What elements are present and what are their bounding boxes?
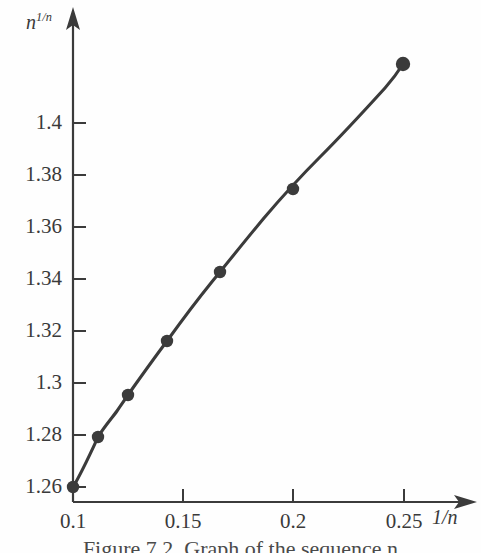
figure-container: n1/n 1/n 1.26 1.28 1.3 1.32 1.34 1.36 1.… [0, 0, 481, 553]
figure-caption: Figure 7.2. Graph of the sequence n [0, 536, 481, 553]
y-tick-label-1-40: 1.4 [0, 112, 62, 133]
y-tick-label-1-28: 1.28 [0, 424, 62, 445]
x-tick-label-0-2: 0.2 [263, 511, 323, 532]
data-point-n6 [214, 266, 226, 278]
data-point-n9 [92, 431, 104, 443]
y-tick-label-1-36: 1.36 [0, 216, 62, 237]
y-axis-title-base: n [26, 11, 36, 33]
y-tick-label-1-26: 1.26 [0, 476, 62, 497]
plot-canvas [0, 0, 481, 553]
x-tick-label-0-25: 0.25 [369, 511, 439, 532]
y-tick-label-1-30: 1.3 [0, 372, 62, 393]
x-tick-label-0-15: 0.15 [148, 511, 218, 532]
y-axis-title-exponent: 1/n [36, 10, 52, 24]
y-tick-label-1-32: 1.32 [0, 320, 62, 341]
data-point-n10 [67, 481, 79, 493]
y-tick-label-1-34: 1.34 [0, 268, 62, 289]
data-curve-n-root-n [73, 64, 403, 487]
x-tick-label-0-1: 0.1 [43, 511, 103, 532]
data-point-n7 [161, 335, 173, 347]
data-point-n4 [396, 57, 410, 71]
y-axis-title: n1/n [26, 12, 52, 32]
y-tick-label-1-38: 1.38 [0, 164, 62, 185]
data-point-n8 [122, 389, 134, 401]
data-point-n5 [287, 183, 299, 195]
